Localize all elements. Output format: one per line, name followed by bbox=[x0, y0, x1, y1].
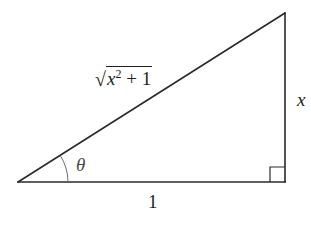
radical-symbol: √ bbox=[95, 69, 106, 89]
hypotenuse-side bbox=[18, 13, 285, 182]
hypotenuse-operator: + bbox=[121, 68, 141, 89]
hypotenuse-constant: 1 bbox=[142, 68, 152, 89]
right-angle-marker bbox=[270, 167, 285, 182]
radicand: x2 + 1 bbox=[106, 66, 152, 88]
opposite-side-label: x bbox=[297, 90, 305, 109]
angle-label: θ bbox=[76, 155, 85, 174]
adjacent-side-label: 1 bbox=[148, 192, 158, 211]
hypotenuse-label: √x2 + 1 bbox=[95, 66, 152, 89]
angle-arc bbox=[60, 155, 68, 182]
